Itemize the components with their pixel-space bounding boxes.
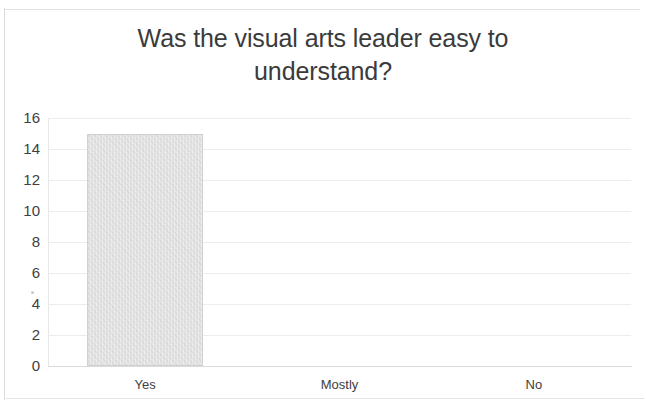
x-axis-tick-label: No bbox=[526, 378, 543, 392]
y-axis-tick-label: 16 bbox=[6, 110, 40, 125]
gridline bbox=[48, 118, 631, 119]
chart-title: Was the visual arts leader easy to under… bbox=[40, 22, 606, 88]
plot-area bbox=[48, 118, 631, 366]
y-axis-tick-labels: 1614121086420 bbox=[4, 0, 40, 411]
y-axis-tick-label: 0 bbox=[6, 358, 40, 373]
y-axis-tick-label: 4 bbox=[6, 296, 40, 311]
y-axis-tick-label: 12 bbox=[6, 172, 40, 187]
chart-page: Was the visual arts leader easy to under… bbox=[0, 0, 646, 411]
y-axis-tick-label: 6 bbox=[6, 265, 40, 280]
scan-artifact-top-edge bbox=[4, 9, 640, 10]
y-axis-tick-label: 8 bbox=[6, 234, 40, 249]
y-axis-tick-label: 14 bbox=[6, 141, 40, 156]
x-axis-line bbox=[48, 366, 632, 367]
x-axis-tick-label: Mostly bbox=[321, 378, 359, 392]
bar-yes bbox=[87, 134, 203, 367]
y-axis-tick-label: 10 bbox=[6, 203, 40, 218]
scan-artifact-bottom-edge bbox=[6, 398, 644, 399]
y-axis-tick-label: 2 bbox=[6, 327, 40, 342]
x-axis-tick-label: Yes bbox=[135, 378, 156, 392]
